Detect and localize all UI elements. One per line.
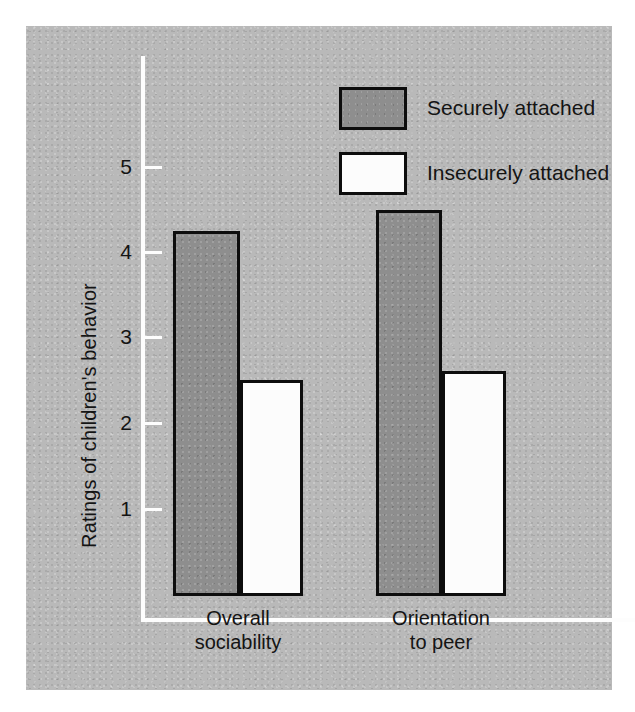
x-category-line-2: sociability <box>123 630 353 654</box>
x-category-line-1: Orientation <box>326 606 556 630</box>
y-tick-4 <box>145 251 162 254</box>
legend-swatch-insecure-icon <box>339 152 407 195</box>
chart-legend: Securely attached Insecurely attached <box>339 84 609 197</box>
legend-label-securely-attached: Securely attached <box>427 96 595 120</box>
bar-secure-orientation-to-peer <box>376 210 442 596</box>
y-axis-line <box>141 56 145 622</box>
y-tick-1 <box>145 508 162 511</box>
bar-insecure-overall-sociability <box>240 380 303 596</box>
y-tick-5 <box>145 166 162 169</box>
y-tick-label-5: 5 <box>102 156 132 177</box>
legend-item-securely-attached: Securely attached <box>339 84 609 132</box>
legend-label-insecurely-attached: Insecurely attached <box>427 161 609 185</box>
x-category-label-orientation-to-peer: Orientation to peer <box>326 606 556 655</box>
x-category-line-2: to peer <box>326 630 556 654</box>
y-tick-label-3: 3 <box>102 326 132 347</box>
y-tick-label-1: 1 <box>102 498 132 519</box>
y-tick-label-2: 2 <box>102 412 132 433</box>
bar-secure-overall-sociability <box>173 231 240 596</box>
x-category-label-overall-sociability: Overall sociability <box>123 606 353 655</box>
legend-swatch-secure-icon <box>339 87 407 130</box>
y-tick-2 <box>145 422 162 425</box>
y-axis-title: Ratings of children's behavior <box>78 256 101 576</box>
bar-insecure-orientation-to-peer <box>442 371 506 596</box>
chart-plot-panel: 5 4 3 2 1 Ratings of children's behavior… <box>26 26 612 690</box>
y-tick-label-4: 4 <box>102 241 132 262</box>
y-tick-3 <box>145 336 162 339</box>
legend-item-insecurely-attached: Insecurely attached <box>339 149 609 197</box>
x-category-line-1: Overall <box>123 606 353 630</box>
